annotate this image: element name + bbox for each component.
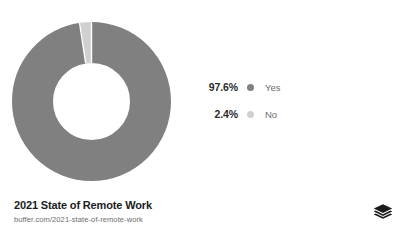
chart-legend: 97.6% Yes 2.4% No [196,78,306,132]
legend-percent-no: 2.4% [196,108,238,120]
legend-label-yes: Yes [265,82,281,93]
legend-label-no: No [265,109,277,120]
legend-item-no: 2.4% No [196,105,306,123]
buffer-logo-icon [372,203,394,225]
legend-percent-yes: 97.6% [196,81,238,93]
donut-chart [12,22,171,181]
legend-color-swatch-no [247,111,254,118]
report-title: 2021 State of Remote Work [14,198,152,212]
report-url[interactable]: buffer.com/2021-state-of-remote-work [14,214,152,225]
legend-color-swatch-yes [247,84,254,91]
donut-chart-svg [12,22,171,181]
footer: 2021 State of Remote Work buffer.com/202… [14,198,152,225]
legend-item-yes: 97.6% Yes [196,78,306,96]
buffer-logo [372,203,394,225]
